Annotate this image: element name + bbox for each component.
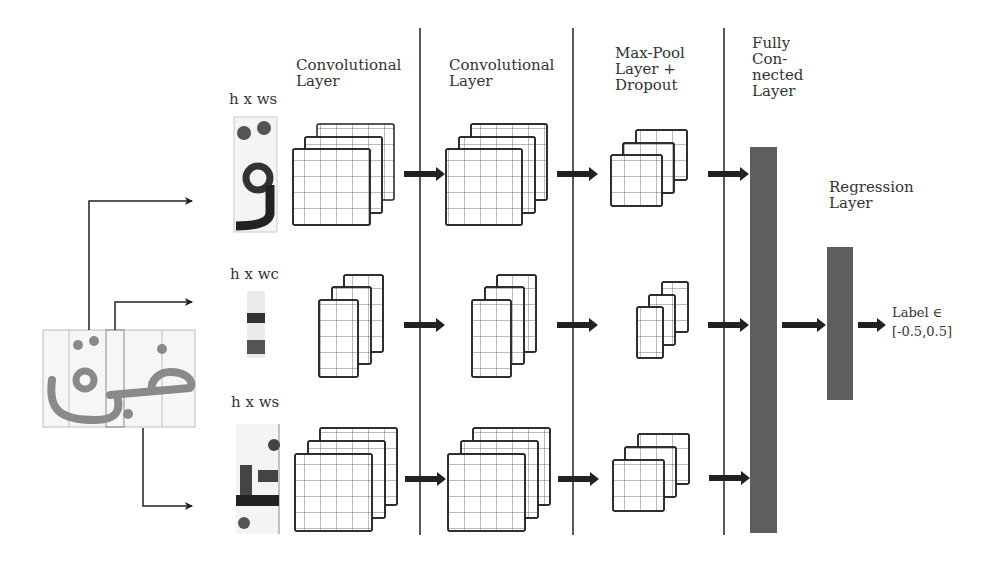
connector-middle [115,302,192,330]
arrow-bot-2 [558,472,599,486]
regression-title: Regression Layer [829,179,914,211]
arrow-regression-to-label [858,318,886,332]
connector-bottom [143,428,192,506]
fc-title-line1: Fully [752,35,803,51]
fc-title-line4: Layer [752,83,803,99]
pool-title: Max-Pool Layer + Dropout [615,45,685,93]
conv1-title-line2: Layer [296,73,401,89]
pool-title-line1: Max-Pool [615,45,685,61]
conv2-title-line1: Convolutional [449,57,554,73]
arrow-mid-3 [708,318,749,332]
arrow-top-2 [557,167,598,181]
arrow-bot-3 [709,471,750,485]
output-label: Label ∈ [-0.5,0.5] [892,303,952,341]
connector-top [89,201,192,330]
pool-middle-stack [637,282,688,358]
pool-title-line2: Layer + [615,61,685,77]
conv2-title: Convolutional Layer [449,57,554,89]
fc-title: Fully Con- nected Layer [752,35,803,99]
conv1-top-stack [293,124,394,225]
pool-bottom-stack [613,434,689,511]
regression-title-line2: Layer [829,195,914,211]
regression-bar [827,247,853,400]
fc-title-line3: nected [752,67,803,83]
output-label-range: [-0.5,0.5] [892,322,952,341]
conv2-title-line2: Layer [449,73,554,89]
arrow-mid-1 [404,318,445,332]
conv2-middle-stack [472,275,536,377]
fc-title-line2: Con- [752,51,803,67]
window-crop-top [234,117,277,232]
arrow-mid-2 [557,318,598,332]
branch-top-dim-label: h x ws [229,90,277,108]
output-label-line1: Label ∈ [892,303,952,322]
input-word-image [43,330,195,427]
conv1-middle-stack [319,275,383,377]
pool-top-stack [611,130,687,206]
arrow-top-1 [404,167,445,181]
arrow-top-3 [708,167,749,181]
fully-connected-bar [750,147,777,533]
conv2-top-stack [446,124,547,225]
conv1-title-line1: Convolutional [296,57,401,73]
window-crop-middle [247,291,265,358]
window-crop-bottom [236,424,280,534]
arrow-bot-1 [405,472,446,486]
conv1-title: Convolutional Layer [296,57,401,89]
conv1-bottom-stack [295,428,397,531]
conv2-bottom-stack [448,428,550,531]
arrow-fc-to-regression [782,318,826,332]
regression-title-line1: Regression [829,179,914,195]
branch-middle-dim-label: h x wc [230,265,279,283]
pool-title-line3: Dropout [615,77,685,93]
branch-bottom-dim-label: h x ws [231,393,279,411]
